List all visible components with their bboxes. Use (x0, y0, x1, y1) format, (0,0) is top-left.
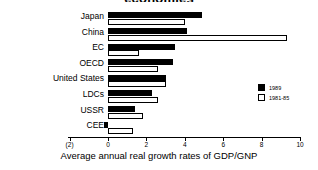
bar-1981-85-ec (108, 50, 139, 56)
x-axis-title: Average annual real growth rates of GDP/… (0, 150, 318, 161)
bar-1989-united-states (108, 75, 166, 81)
bar-1981-85-ldcs (108, 97, 158, 103)
bar-1989-china (108, 28, 187, 34)
bar-1989-oecd (108, 59, 173, 65)
bar-1981-85-japan (108, 19, 185, 25)
chart-row: USSR (0, 106, 318, 122)
legend-label: 1981-85 (269, 94, 289, 102)
chart-row: OECD (0, 59, 318, 75)
category-label-ldcs: LDCs (83, 90, 104, 99)
x-tick-label: 4 (183, 141, 187, 148)
plot-area: JapanChinaECOECDUnited StatesLDCsUSSRCEE (0, 11, 318, 137)
category-label-ussr: USSR (80, 106, 104, 115)
legend-swatch-icon (258, 84, 265, 91)
bar-1981-85-oecd (108, 66, 158, 72)
category-label-oecd: OECD (79, 59, 104, 68)
category-label-cee: CEE (87, 121, 104, 130)
chart-title: economies (0, 0, 318, 2)
x-tick-label: 8 (260, 141, 264, 148)
bar-1981-85-china (108, 35, 287, 41)
chart-row: EC (0, 43, 318, 59)
category-label-japan: Japan (81, 12, 104, 21)
legend-swatch-icon (258, 94, 265, 101)
x-tick-label: 10 (296, 141, 303, 148)
x-tick-label: 0 (106, 141, 110, 148)
legend-item: 1981-85 (258, 93, 314, 102)
bar-1989-ec (108, 44, 175, 50)
bar-1981-85-ussr (108, 113, 143, 119)
x-tick-label: 6 (221, 141, 225, 148)
category-label-ec: EC (92, 43, 104, 52)
bar-1989-ldcs (108, 90, 152, 96)
bar-1989-japan (108, 12, 202, 18)
bar-1989-cee (104, 122, 108, 128)
bar-1981-85-united-states (108, 81, 166, 87)
chart-figure: economies JapanChinaECOECDUnited StatesL… (0, 0, 318, 170)
chart-row: CEE (0, 121, 318, 137)
x-tick-label: (2) (66, 141, 74, 148)
legend-label: 1989 (269, 84, 281, 92)
bar-1981-85-cee (108, 128, 133, 134)
chart-legend: 19891981-85 (258, 83, 314, 103)
category-label-china: China (82, 28, 104, 37)
chart-row: Japan (0, 12, 318, 28)
x-tick-label: 2 (145, 141, 149, 148)
legend-item: 1989 (258, 83, 314, 92)
bar-1989-ussr (108, 106, 135, 112)
chart-row: China (0, 28, 318, 44)
category-label-united-states: United States (53, 74, 104, 83)
